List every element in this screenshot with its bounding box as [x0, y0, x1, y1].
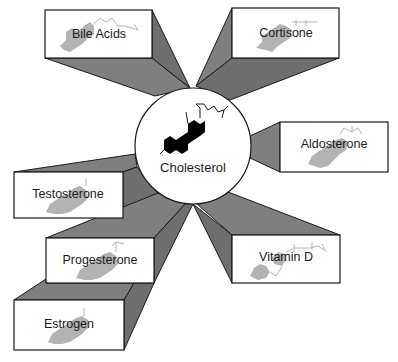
product-label: Testosterone: [32, 187, 104, 201]
product-testosterone: Testosterone: [14, 172, 123, 218]
beam-testosterone-top: [14, 154, 137, 172]
product-label: Progesterone: [62, 253, 137, 267]
product-progesterone: Progesterone: [46, 238, 154, 283]
product-estrogen: Estrogen: [14, 300, 124, 350]
product-cortisone: Cortisone: [232, 8, 339, 58]
beam-aldosterone: [250, 122, 280, 172]
center-label: Cholesterol: [160, 160, 226, 175]
product-bile-acids: Bile Acids: [45, 10, 152, 58]
product-vitamin-d: Vitamin D: [232, 235, 340, 283]
product-aldosterone: Aldosterone: [280, 122, 388, 172]
cholesterol-derivatives-diagram: Cholesterol Bile Acids Cortisone Aldoste: [0, 0, 398, 362]
product-label: Cortisone: [259, 26, 313, 40]
center-node: Cholesterol: [135, 88, 251, 204]
beam-estrogen-side: [124, 283, 154, 350]
product-label: Aldosterone: [301, 137, 368, 151]
center-circle: [135, 88, 251, 204]
product-label: Bile Acids: [72, 27, 126, 41]
product-label: Vitamin D: [259, 250, 313, 264]
product-label: Estrogen: [44, 317, 94, 331]
